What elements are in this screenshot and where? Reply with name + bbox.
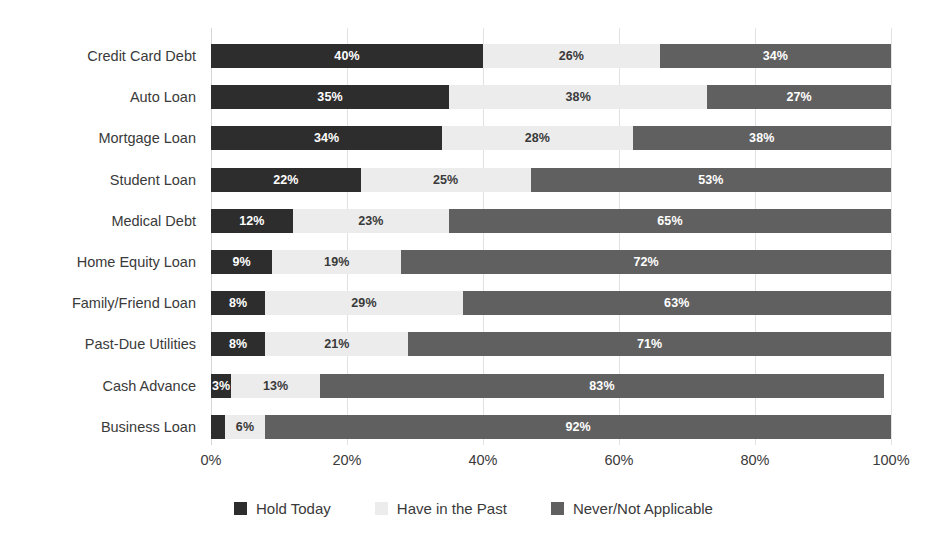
bar-segment: 19% [272,250,401,274]
bar-value-label: 63% [664,296,689,310]
plot-area: 40%26%34%35%38%27%34%28%38%22%25%53%12%2… [211,28,891,445]
bar-value-label: 71% [637,337,662,351]
bar-segment: 40% [211,44,483,68]
bar-value-label: 6% [236,420,254,434]
bar-value-label: 8% [229,337,247,351]
x-axis-tick: 20% [332,452,361,468]
bar-value-label: 21% [324,337,349,351]
bar-value-label: 3% [212,379,230,393]
bar-segment: 65% [449,209,891,233]
x-axis-tick: 80% [740,452,769,468]
bar-value-label: 12% [239,214,264,228]
bar-row: 40%26%34% [211,44,891,68]
bar-value-label: 8% [229,296,247,310]
bar-segment: 38% [633,126,891,150]
y-axis-label: Mortgage Loan [0,126,196,150]
bar-row: 8%21%71% [211,332,891,356]
bar-segment: 3% [211,374,231,398]
y-axis-label: Cash Advance [0,374,196,398]
bar-segment: 29% [265,291,462,315]
bar-segment: 28% [442,126,632,150]
legend-label: Never/Not Applicable [573,500,713,517]
legend-swatch-icon [375,502,388,515]
bar-row: 9%19%72% [211,250,891,274]
bar-value-label: 34% [314,131,339,145]
bar-segment [211,415,225,439]
bar-segment: 8% [211,291,265,315]
bar-segment: 53% [531,168,891,192]
legend-item[interactable]: Hold Today [234,500,331,517]
y-axis-label: Business Loan [0,415,196,439]
bar-segment: 12% [211,209,293,233]
bar-value-label: 29% [351,296,376,310]
bar-segment: 27% [707,85,891,109]
bar-segment: 6% [225,415,266,439]
bar-value-label: 72% [634,255,659,269]
chart-legend: Hold TodayHave in the PastNever/Not Appl… [0,500,947,517]
legend-swatch-icon [234,502,247,515]
bar-value-label: 83% [589,379,614,393]
bar-row: 3%13%83% [211,374,891,398]
bar-segment: 34% [660,44,891,68]
bar-value-label: 65% [657,214,682,228]
gridline-100 [891,28,892,445]
bar-value-label: 28% [525,131,550,145]
legend-label: Hold Today [256,500,331,517]
bar-value-label: 92% [566,420,591,434]
bar-value-label: 38% [749,131,774,145]
bar-segment: 72% [401,250,891,274]
bar-row: 6%92% [211,415,891,439]
bar-segment: 83% [320,374,884,398]
x-axis-tick: 40% [468,452,497,468]
bar-row: 35%38%27% [211,85,891,109]
bar-value-label: 38% [566,90,591,104]
bar-segment: 9% [211,250,272,274]
x-axis-tick: 60% [604,452,633,468]
bar-segment: 92% [265,415,891,439]
legend-label: Have in the Past [397,500,507,517]
bar-value-label: 25% [433,173,458,187]
bar-segment: 38% [449,85,707,109]
y-axis-label: Past-Due Utilities [0,332,196,356]
bar-value-label: 19% [324,255,349,269]
bar-segment: 23% [293,209,449,233]
bar-segment: 63% [463,291,891,315]
bar-value-label: 53% [698,173,723,187]
bar-segment: 26% [483,44,660,68]
bar-value-label: 27% [787,90,812,104]
bar-value-label: 26% [559,49,584,63]
bar-row: 22%25%53% [211,168,891,192]
y-axis-label: Medical Debt [0,209,196,233]
bar-value-label: 34% [763,49,788,63]
bar-value-label: 23% [358,214,383,228]
legend-item[interactable]: Never/Not Applicable [551,500,713,517]
y-axis-label: Auto Loan [0,85,196,109]
y-axis-label: Family/Friend Loan [0,291,196,315]
bar-value-label: 22% [273,173,298,187]
bar-segment: 13% [231,374,319,398]
bar-value-label: 40% [334,49,359,63]
bar-segment: 22% [211,168,361,192]
bar-value-label: 35% [317,90,342,104]
bar-segment: 71% [408,332,891,356]
stacked-bar-chart: 40%26%34%35%38%27%34%28%38%22%25%53%12%2… [0,0,947,556]
y-axis-label: Credit Card Debt [0,44,196,68]
bar-row: 12%23%65% [211,209,891,233]
bar-value-label: 13% [263,379,288,393]
legend-item[interactable]: Have in the Past [375,500,507,517]
bar-row: 34%28%38% [211,126,891,150]
bar-segment: 25% [361,168,531,192]
bar-row: 8%29%63% [211,291,891,315]
bar-segment: 8% [211,332,265,356]
bar-segment: 34% [211,126,442,150]
bar-segment: 21% [265,332,408,356]
x-axis-tick: 100% [872,452,909,468]
bar-value-label: 9% [232,255,250,269]
y-axis-label: Student Loan [0,168,196,192]
y-axis-label: Home Equity Loan [0,250,196,274]
legend-swatch-icon [551,502,564,515]
bar-segment: 35% [211,85,449,109]
x-axis-tick: 0% [201,452,222,468]
